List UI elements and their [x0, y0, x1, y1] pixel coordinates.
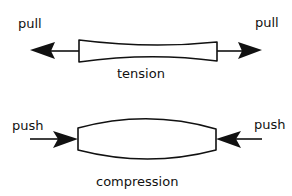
tension-label: tension: [117, 66, 165, 81]
compression-group: push push compression: [12, 117, 286, 189]
tension-compression-diagram: pull pull tension push push compression: [0, 0, 292, 196]
tension-group: pull pull tension: [18, 15, 279, 81]
pull-label-left: pull: [18, 16, 42, 31]
push-label-right: push: [254, 117, 286, 132]
pull-label-right: pull: [255, 15, 279, 30]
compression-label: compression: [96, 174, 178, 189]
compression-bar: [78, 119, 216, 159]
tension-bar: [79, 40, 217, 62]
push-label-left: push: [12, 118, 44, 133]
